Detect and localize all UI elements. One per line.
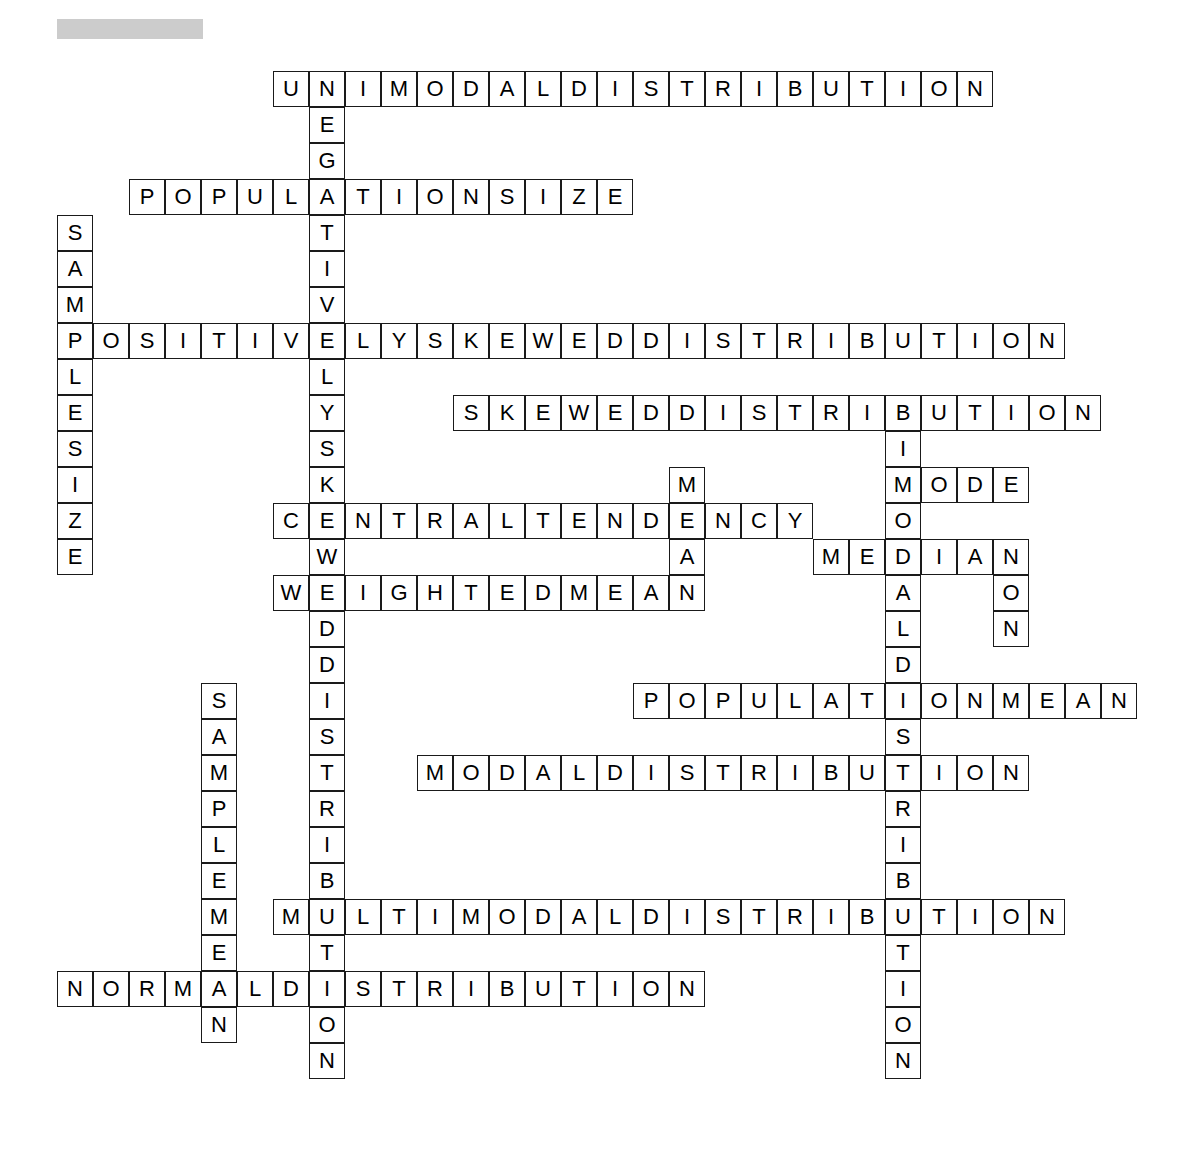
- crossword-cell[interactable]: T: [921, 899, 957, 935]
- crossword-cell[interactable]: V: [309, 287, 345, 323]
- crossword-cell[interactable]: N: [597, 503, 633, 539]
- crossword-cell[interactable]: S: [345, 971, 381, 1007]
- crossword-cell[interactable]: D: [525, 575, 561, 611]
- crossword-cell[interactable]: N: [1065, 395, 1101, 431]
- crossword-cell[interactable]: I: [885, 827, 921, 863]
- crossword-cell[interactable]: I: [597, 71, 633, 107]
- crossword-cell[interactable]: T: [345, 179, 381, 215]
- crossword-cell[interactable]: A: [453, 503, 489, 539]
- crossword-cell[interactable]: I: [525, 179, 561, 215]
- crossword-cell[interactable]: P: [201, 179, 237, 215]
- crossword-cell[interactable]: E: [309, 323, 345, 359]
- crossword-cell[interactable]: A: [309, 179, 345, 215]
- crossword-cell[interactable]: S: [669, 755, 705, 791]
- crossword-cell[interactable]: T: [957, 395, 993, 431]
- crossword-cell[interactable]: D: [633, 899, 669, 935]
- crossword-cell[interactable]: M: [201, 755, 237, 791]
- crossword-cell[interactable]: S: [453, 395, 489, 431]
- crossword-cell[interactable]: N: [669, 575, 705, 611]
- crossword-cell[interactable]: S: [633, 71, 669, 107]
- crossword-cell[interactable]: U: [741, 683, 777, 719]
- crossword-cell[interactable]: I: [885, 971, 921, 1007]
- crossword-cell[interactable]: A: [489, 71, 525, 107]
- crossword-cell[interactable]: U: [273, 71, 309, 107]
- crossword-cell[interactable]: E: [597, 575, 633, 611]
- crossword-cell[interactable]: S: [201, 683, 237, 719]
- crossword-cell[interactable]: S: [489, 179, 525, 215]
- crossword-cell[interactable]: M: [669, 467, 705, 503]
- crossword-cell[interactable]: I: [417, 899, 453, 935]
- crossword-cell[interactable]: O: [669, 683, 705, 719]
- crossword-cell[interactable]: R: [309, 791, 345, 827]
- crossword-cell[interactable]: I: [669, 323, 705, 359]
- crossword-cell[interactable]: Z: [57, 503, 93, 539]
- crossword-cell[interactable]: D: [489, 755, 525, 791]
- crossword-cell[interactable]: L: [57, 359, 93, 395]
- crossword-cell[interactable]: E: [309, 107, 345, 143]
- crossword-cell[interactable]: L: [309, 359, 345, 395]
- crossword-cell[interactable]: E: [993, 467, 1029, 503]
- crossword-cell[interactable]: P: [129, 179, 165, 215]
- crossword-cell[interactable]: N: [453, 179, 489, 215]
- crossword-cell[interactable]: T: [201, 323, 237, 359]
- crossword-cell[interactable]: R: [417, 971, 453, 1007]
- crossword-cell[interactable]: I: [849, 395, 885, 431]
- crossword-cell[interactable]: W: [561, 395, 597, 431]
- crossword-cell[interactable]: U: [921, 395, 957, 431]
- crossword-cell[interactable]: E: [309, 575, 345, 611]
- crossword-cell[interactable]: D: [597, 323, 633, 359]
- crossword-cell[interactable]: M: [993, 683, 1029, 719]
- crossword-cell[interactable]: M: [273, 899, 309, 935]
- crossword-cell[interactable]: I: [345, 575, 381, 611]
- crossword-cell[interactable]: N: [993, 755, 1029, 791]
- crossword-cell[interactable]: I: [885, 71, 921, 107]
- crossword-cell[interactable]: T: [849, 683, 885, 719]
- crossword-cell[interactable]: A: [201, 971, 237, 1007]
- crossword-cell[interactable]: U: [309, 899, 345, 935]
- crossword-cell[interactable]: A: [201, 719, 237, 755]
- crossword-cell[interactable]: K: [489, 395, 525, 431]
- crossword-cell[interactable]: I: [921, 755, 957, 791]
- crossword-cell[interactable]: I: [777, 755, 813, 791]
- crossword-cell[interactable]: L: [345, 899, 381, 935]
- crossword-cell[interactable]: T: [309, 755, 345, 791]
- crossword-cell[interactable]: P: [201, 791, 237, 827]
- crossword-cell[interactable]: D: [885, 647, 921, 683]
- crossword-cell[interactable]: T: [741, 899, 777, 935]
- crossword-cell[interactable]: I: [345, 71, 381, 107]
- crossword-cell[interactable]: B: [885, 863, 921, 899]
- crossword-cell[interactable]: O: [165, 179, 201, 215]
- crossword-cell[interactable]: P: [633, 683, 669, 719]
- crossword-cell[interactable]: O: [885, 1007, 921, 1043]
- crossword-cell[interactable]: T: [705, 755, 741, 791]
- crossword-cell[interactable]: E: [57, 395, 93, 431]
- crossword-cell[interactable]: S: [417, 323, 453, 359]
- crossword-cell[interactable]: M: [561, 575, 597, 611]
- crossword-cell[interactable]: T: [381, 503, 417, 539]
- crossword-cell[interactable]: L: [777, 683, 813, 719]
- crossword-cell[interactable]: A: [1065, 683, 1101, 719]
- crossword-cell[interactable]: D: [633, 503, 669, 539]
- crossword-cell[interactable]: T: [309, 215, 345, 251]
- crossword-cell[interactable]: M: [57, 287, 93, 323]
- crossword-cell[interactable]: O: [453, 755, 489, 791]
- crossword-cell[interactable]: P: [57, 323, 93, 359]
- crossword-cell[interactable]: I: [381, 179, 417, 215]
- crossword-cell[interactable]: T: [669, 71, 705, 107]
- crossword-cell[interactable]: L: [489, 503, 525, 539]
- crossword-cell[interactable]: O: [417, 71, 453, 107]
- crossword-cell[interactable]: N: [1029, 323, 1065, 359]
- crossword-cell[interactable]: N: [669, 971, 705, 1007]
- crossword-cell[interactable]: N: [705, 503, 741, 539]
- crossword-cell[interactable]: R: [129, 971, 165, 1007]
- crossword-cell[interactable]: Y: [381, 323, 417, 359]
- crossword-cell[interactable]: N: [957, 683, 993, 719]
- crossword-cell[interactable]: Y: [309, 395, 345, 431]
- crossword-cell[interactable]: D: [669, 395, 705, 431]
- crossword-cell[interactable]: D: [633, 395, 669, 431]
- crossword-cell[interactable]: C: [741, 503, 777, 539]
- crossword-cell[interactable]: I: [309, 971, 345, 1007]
- crossword-cell[interactable]: I: [885, 683, 921, 719]
- crossword-cell[interactable]: B: [849, 323, 885, 359]
- crossword-cell[interactable]: L: [561, 755, 597, 791]
